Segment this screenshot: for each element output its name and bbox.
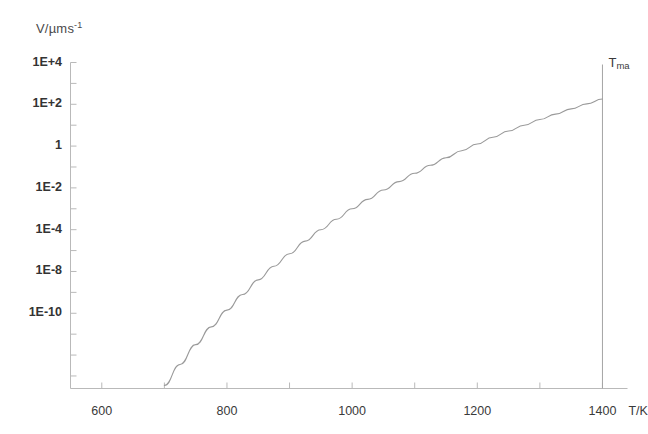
axes-group xyxy=(71,63,628,389)
ticks-group xyxy=(71,63,603,389)
data-series-group xyxy=(164,99,602,385)
